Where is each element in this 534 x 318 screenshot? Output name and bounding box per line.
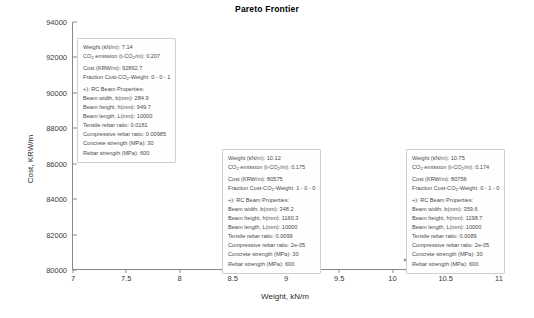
x-tick-mark xyxy=(392,269,393,273)
datatip-beam-length-row: Beam length, L(mm): 10000 xyxy=(83,112,170,121)
datatip-tensile-row: Tensile rebar ratio: 0.0181 xyxy=(83,121,170,130)
datatip-weight-row: Weight (kN/m): 10.12 xyxy=(228,154,315,163)
datatip-rebar-row: Rebar strength (MPa): 600 xyxy=(412,260,499,269)
datatip-cost-row: Cost (KRW/m): 80575 xyxy=(228,175,315,184)
datatip-tensile-row: Tensile rebar ratio: 0.0099 xyxy=(228,232,315,241)
datatip-fraction-row: Fraction Cost-CO2-Weight: 0 - 0 - 1 xyxy=(83,73,170,83)
y-tick-label: 92000 xyxy=(46,53,73,62)
y-tick-label: 94000 xyxy=(46,18,73,27)
x-tick-mark xyxy=(126,269,127,273)
datatip-beam-width-row: Beam width, b(mm): 359.6 xyxy=(412,205,499,214)
datatip-compressive-row: Compressive rebar ratio: 2e-05 xyxy=(228,241,315,250)
y-tick-label: 80000 xyxy=(46,266,73,275)
y-tick-label: 88000 xyxy=(46,124,73,133)
y-tick-label: 84000 xyxy=(46,195,73,204)
datatip-point-3[interactable]: Weight (kN/m): 10.75 CO2 emission (t-CO2… xyxy=(406,149,505,274)
y-tick-mark xyxy=(73,22,77,23)
datatip-point-2[interactable]: Weight (kN/m): 10.12 CO2 emission (t-CO2… xyxy=(222,149,321,274)
datatip-rebar-row: Rebar strength (MPa): 600 xyxy=(83,149,170,158)
datatip-concrete-row: Concrete strength (MPa): 30 xyxy=(412,250,499,259)
datatip-beam-height-row: Beam height, h(mm): 949.7 xyxy=(83,103,170,112)
chart-title: Pareto Frontier xyxy=(0,4,534,14)
datatip-co2-row: CO2 emission (t-CO2/m): 0.207 xyxy=(83,52,170,62)
datatip-props-header: +): RC Beam Properties: xyxy=(228,196,315,205)
datatip-props-header: +): RC Beam Properties: xyxy=(412,196,499,205)
x-tick-mark xyxy=(339,269,340,273)
y-tick-mark xyxy=(73,163,77,164)
datatip-tensile-row: Tensile rebar ratio: 0.0089 xyxy=(412,232,499,241)
datatip-concrete-row: Concrete strength (MPa): 30 xyxy=(228,250,315,259)
datatip-props-header: +): RC Beam Properties: xyxy=(83,85,170,94)
pareto-frontier-figure: Pareto Frontier Cost, KRW/m Weight, kN/m… xyxy=(0,0,534,318)
x-axis-label: Weight, kN/m xyxy=(72,292,498,301)
datatip-fraction-row: Fraction Cost-CO2-Weight: 1 - 0 - 0 xyxy=(228,184,315,194)
y-tick-mark xyxy=(73,234,77,235)
datatip-cost-row: Cost (KRW/m): 80756 xyxy=(412,175,499,184)
x-tick-mark xyxy=(179,269,180,273)
datatip-rebar-row: Rebar strength (MPa): 600 xyxy=(228,260,315,269)
datatip-co2-row: CO2 emission (t-CO2/m): 0.175 xyxy=(228,163,315,173)
datatip-weight-row: Weight (kN/m): 7.14 xyxy=(83,43,170,52)
y-tick-mark xyxy=(73,199,77,200)
datatip-point-1[interactable]: Weight (kN/m): 7.14 CO2 emission (t-CO2/… xyxy=(77,38,176,163)
y-tick-label: 82000 xyxy=(46,230,73,239)
x-tick-mark xyxy=(73,269,74,273)
datatip-beam-height-row: Beam height, h(mm): 1198.7 xyxy=(412,214,499,223)
datatip-compressive-row: Compressive rebar ratio: 0.00985 xyxy=(83,130,170,139)
y-tick-label: 86000 xyxy=(46,159,73,168)
datatip-concrete-row: Concrete strength (MPa): 30 xyxy=(83,139,170,148)
datatip-cost-row: Cost (KRW/m): 92862.7 xyxy=(83,64,170,73)
datatip-beam-length-row: Beam length, L(mm): 10000 xyxy=(228,223,315,232)
datatip-beam-height-row: Beam height, h(mm): 1160.3 xyxy=(228,214,315,223)
y-tick-label: 90000 xyxy=(46,88,73,97)
y-axis-label: Cost, KRW/m xyxy=(26,135,35,183)
datatip-co2-row: CO2 emission (t-CO2/m): 0.174 xyxy=(412,163,499,173)
datatip-beam-width-row: Beam width, b(mm): 348.2 xyxy=(228,205,315,214)
datatip-beam-length-row: Beam length, L(mm): 10000 xyxy=(412,223,499,232)
datatip-compressive-row: Compressive rebar ratio: 2e-05 xyxy=(412,241,499,250)
datatip-weight-row: Weight (kN/m): 10.75 xyxy=(412,154,499,163)
datatip-beam-width-row: Beam width, b(mm): 284.9 xyxy=(83,94,170,103)
datatip-fraction-row: Fraction Cost-CO2-Weight: 0 - 1 - 0 xyxy=(412,184,499,194)
